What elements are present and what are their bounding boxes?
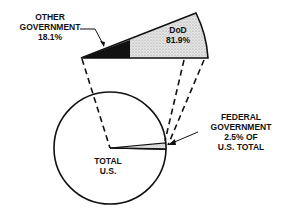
other-government-label: OTHER GOVERNMENT 18.1% — [12, 12, 88, 42]
arrowhead-icon — [100, 41, 105, 47]
label-line: GOVERNMENT — [196, 122, 286, 132]
federal-government-label: FEDERAL GOVERNMENT 2.5% OF U.S. TOTAL — [196, 112, 286, 152]
label-line: 81.9% — [160, 35, 196, 45]
total-us-label: TOTAL U.S. — [86, 156, 130, 176]
arrowhead-icon — [168, 139, 176, 145]
label-line: TOTAL — [86, 156, 130, 166]
label-line: OTHER — [12, 12, 88, 22]
label-line: GOVERNMENT — [12, 22, 88, 32]
label-line: U.S. — [86, 166, 130, 176]
dod-label: DoD 81.9% — [160, 25, 196, 45]
label-line: 2.5% OF — [196, 132, 286, 142]
label-line: FEDERAL — [196, 112, 286, 122]
label-line: U.S. TOTAL — [196, 142, 286, 152]
label-line: DoD — [160, 25, 196, 35]
federal-leader-line — [172, 132, 198, 143]
label-line: 18.1% — [12, 32, 88, 42]
federal-slice-edge — [110, 148, 166, 149]
